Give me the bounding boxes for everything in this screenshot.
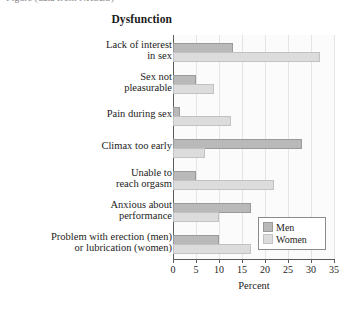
- category-label: Sex notpleasurable: [0, 71, 172, 94]
- category-label: Unable toreach orgasm: [0, 167, 172, 190]
- legend-item-men: Men: [263, 221, 321, 233]
- legend-swatch-men-icon: [263, 222, 273, 232]
- bar-women: [173, 244, 251, 254]
- gridline: [334, 35, 335, 259]
- x-axis-tick: [173, 259, 174, 263]
- bar-women: [173, 116, 231, 126]
- legend-label-men: Men: [276, 222, 294, 233]
- chart-legend: Men Women: [258, 217, 326, 250]
- clipped-caption: Figure (data from NHSLS): [0, 0, 348, 11]
- category-label: Problem with erection (men)or lubricatio…: [0, 231, 172, 254]
- x-axis-tick: [196, 259, 197, 263]
- x-axis-tick: [265, 259, 266, 263]
- y-axis-title: Dysfunction: [60, 13, 172, 25]
- x-axis-tick: [219, 259, 220, 263]
- category-label: Climax too early: [0, 140, 172, 152]
- x-axis-tick: [288, 259, 289, 263]
- legend-item-women: Women: [263, 233, 321, 245]
- x-axis-tick: [242, 259, 243, 263]
- bar-women: [173, 212, 219, 222]
- bar-women: [173, 84, 214, 94]
- x-axis-tick: [334, 259, 335, 263]
- bar-women: [173, 148, 205, 158]
- x-axis-title: Percent: [173, 280, 335, 291]
- legend-swatch-women-icon: [263, 234, 273, 244]
- category-label: Lack of interestin sex: [0, 39, 172, 62]
- category-label: Pain during sex: [0, 108, 172, 120]
- caption-text: Figure (data from NHSLS): [6, 0, 114, 3]
- bar-chart-figure: Dysfunction Percent Men Women 0510152025…: [0, 11, 348, 312]
- bar-women: [173, 52, 320, 62]
- legend-label-women: Women: [276, 234, 307, 245]
- x-axis-tick: [311, 259, 312, 263]
- bar-women: [173, 180, 274, 190]
- x-axis-tick-label: 35: [321, 264, 347, 275]
- category-label: Anxious aboutperformance: [0, 199, 172, 222]
